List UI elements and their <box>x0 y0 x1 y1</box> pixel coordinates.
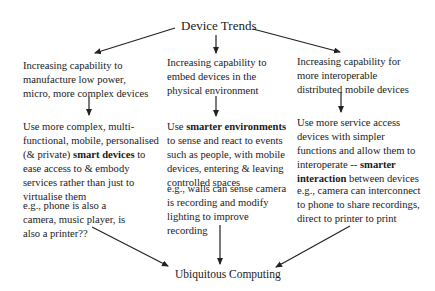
trend-embed: Increasing capability to embed devices i… <box>167 56 266 98</box>
example-smarter-environments: e.g., walls can sense camera is recordin… <box>167 182 286 238</box>
approach-smart-devices: Use more complex, multi- functional, mob… <box>23 120 159 204</box>
example-smarter-interaction: e.g., camera can interconnect to phone t… <box>297 184 421 226</box>
trend-interoperable: Increasing capability for more interoper… <box>297 55 409 97</box>
diagram-title: Device Trends <box>181 18 256 33</box>
arrow-title-to-left <box>95 28 175 53</box>
trend-manufacture: Increasing capability to manufacture low… <box>23 59 148 101</box>
ubiquitous-computing-label: Ubiquitous Computing <box>175 267 281 282</box>
example-smart-devices: e.g., phone is also a camera, music play… <box>23 199 125 241</box>
approach-smarter-environments: Use smarter environments to sense and re… <box>167 120 286 190</box>
approach-smarter-interaction: Use more service access devices with sim… <box>297 116 419 186</box>
arrow-right-to-bottom <box>276 226 350 267</box>
arrow-title-to-right <box>253 29 340 52</box>
